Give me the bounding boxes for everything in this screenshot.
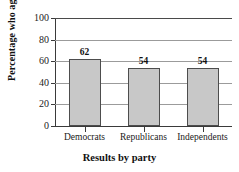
- y-tick-mark: [51, 40, 55, 41]
- bar-value-label: 54: [183, 56, 223, 66]
- bar: [128, 68, 160, 126]
- x-axis-title: Results by party: [0, 152, 239, 163]
- bar-value-label: 54: [124, 56, 164, 66]
- y-axis-line: [55, 18, 56, 127]
- y-tick-label: 80: [39, 34, 49, 45]
- y-tick-mark: [51, 104, 55, 105]
- y-tick-label: 40: [39, 77, 49, 88]
- bar: [69, 59, 101, 126]
- y-tick-label: 60: [39, 55, 49, 66]
- y-tick-label: 20: [39, 98, 49, 109]
- plot-area: 020406080100 625454: [55, 18, 232, 127]
- y-tick-label: 100: [34, 12, 49, 23]
- gridline: [55, 40, 232, 41]
- y-tick-mark: [51, 83, 55, 84]
- y-tick-label: 0: [44, 120, 49, 131]
- bar-value-label: 62: [65, 47, 105, 57]
- x-category-label: Independents: [177, 132, 228, 142]
- y-axis-title: Percentage who agree: [6, 0, 17, 89]
- y-tick-mark: [51, 126, 55, 127]
- gridline: [55, 18, 232, 19]
- bar: [187, 68, 219, 126]
- x-category-label: Republicans: [120, 132, 167, 142]
- bar-chart: Percentage who agree 020406080100 625454…: [0, 0, 239, 172]
- x-category-label: Democrats: [64, 132, 105, 142]
- y-tick-mark: [51, 18, 55, 19]
- y-tick-mark: [51, 61, 55, 62]
